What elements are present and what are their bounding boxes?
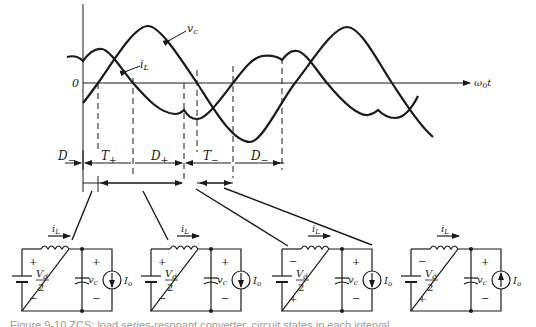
interval-label-t-minus: T−	[203, 149, 219, 165]
svg-text:2: 2	[38, 282, 44, 293]
iL-curve-label: iL	[140, 58, 149, 72]
svg-text:iL: iL	[441, 223, 449, 236]
vc-curve-label: vc	[187, 22, 198, 36]
svg-text:−: −	[481, 293, 489, 304]
interval-label-d-minus-2: D−	[250, 149, 268, 165]
svg-text:vc: vc	[477, 274, 487, 287]
interval-label-d-plus: D+	[150, 149, 168, 165]
svg-text:Vd: Vd	[165, 268, 177, 281]
svg-text:Vd: Vd	[425, 268, 437, 281]
vc-curve	[83, 26, 433, 142]
svg-text:+: +	[221, 256, 229, 267]
svg-text:−: −	[221, 293, 229, 304]
svg-text:+: +	[289, 293, 297, 304]
circuit-t-plus: iL + − Vd 2 + − vc Io	[141, 223, 261, 313]
svg-text:2: 2	[427, 282, 433, 293]
x-axis-label: ω0t	[474, 77, 492, 90]
svg-text:Io: Io	[123, 275, 132, 288]
svg-text:vc: vc	[217, 274, 227, 287]
svg-text:Vd: Vd	[296, 268, 308, 281]
svg-text:+: +	[92, 256, 100, 267]
svg-text:+: +	[481, 256, 489, 267]
svg-text:iL: iL	[52, 223, 60, 236]
svg-text:iL: iL	[181, 223, 189, 236]
svg-text:vc: vc	[348, 274, 358, 287]
svg-text:+: +	[29, 256, 37, 267]
interval-row-2	[83, 176, 233, 192]
svg-text:+: +	[418, 293, 426, 304]
svg-text:+: +	[352, 256, 360, 267]
svg-text:−: −	[289, 256, 297, 267]
svg-text:−: −	[158, 293, 166, 304]
svg-text:Io: Io	[512, 275, 521, 288]
circuit-d-minus: iL + − Vd 2 + − vc Io	[12, 223, 132, 313]
svg-text:−: −	[418, 256, 426, 267]
svg-text:+: +	[158, 256, 166, 267]
waveform-plot	[65, 4, 470, 246]
svg-text:−: −	[92, 293, 100, 304]
svg-text:−: −	[352, 293, 360, 304]
interval-label-d-minus-1: D−	[57, 149, 75, 165]
leader-lines	[72, 188, 372, 246]
iL-curve	[67, 49, 418, 119]
interval-label-t-plus: T+	[101, 149, 117, 165]
svg-text:2: 2	[167, 282, 173, 293]
svg-text:Io: Io	[383, 275, 392, 288]
svg-text:Io: Io	[252, 275, 261, 288]
circuit-d-plus: iL − + Vd 2 + − vc Io	[272, 223, 392, 313]
figure-caption: Figure 9-10 ZCS: load series-resonant co…	[10, 318, 393, 327]
svg-text:−: −	[29, 293, 37, 304]
svg-text:2: 2	[298, 282, 304, 293]
svg-text:vc: vc	[88, 274, 98, 287]
circuit-t-minus: iL − + Vd 2 + − vc Io	[401, 223, 521, 313]
resonant-converter-figure: 0 ω0t vc iL D− T+ D+ T− D− iL + − Vd	[0, 0, 536, 327]
origin-label: 0	[72, 77, 79, 90]
svg-text:Vd: Vd	[36, 268, 48, 281]
